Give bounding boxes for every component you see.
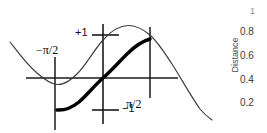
distance-y-tick-1: 1: [250, 6, 267, 16]
y-tick-label-plus-one: +1: [75, 27, 88, 38]
adjacent-distance-chart-crop: Distance 1 0.8 0.6 0.4 0.2: [222, 0, 267, 133]
sine-wave-figure: −π/2 π/2 +1 −1: [0, 0, 222, 133]
y-tick-label-minus-one: −1: [122, 103, 135, 114]
sine-wave-svg: [0, 0, 222, 133]
distance-y-tick-0-2: 0.2: [240, 97, 267, 108]
x-tick-label-neg-pi-over-2: −π/2: [36, 44, 58, 56]
distance-y-tick-0-4: 0.4: [240, 74, 267, 85]
distance-y-tick-0-6: 0.6: [240, 50, 267, 61]
screenshot-root: −π/2 π/2 +1 −1 Distance 1 0.8 0.6 0.4 0.…: [0, 0, 267, 133]
distance-axis-title: Distance: [230, 25, 240, 85]
distance-y-tick-0-8: 0.8: [240, 26, 267, 37]
